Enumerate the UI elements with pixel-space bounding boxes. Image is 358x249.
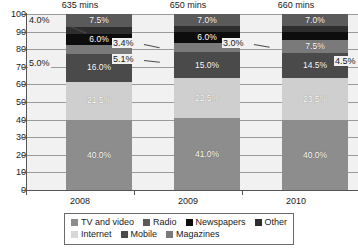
- callout-other-2008: 4.0%: [28, 15, 51, 25]
- legend-item-mobile[interactable]: Mobile: [121, 230, 158, 239]
- bar-annotation-2010: 660 mins: [248, 0, 344, 10]
- callout-newspapers-2009: 5.1%: [112, 54, 135, 64]
- segment-internet-2010[interactable]: 23.5%: [282, 78, 348, 119]
- y-axis-line: [26, 13, 27, 191]
- legend-label: Internet: [81, 230, 112, 239]
- segment-tv-and-video-2010[interactable]: 40.0%: [282, 120, 348, 190]
- callout-leader-line: [144, 44, 160, 48]
- plot-area: 40.0%21.5%16.0%6.0%7.5%41.0%22.5%15.0%6.…: [26, 14, 358, 190]
- bar-annotation-2009: 650 mins: [140, 0, 236, 10]
- segment-label: 7.5%: [305, 42, 324, 51]
- segment-newspapers-2010[interactable]: [282, 32, 348, 40]
- segment-internet-2009[interactable]: 22.5%: [174, 78, 240, 118]
- x-label-2010: 2010: [248, 196, 344, 206]
- segment-label: 6.0%: [89, 35, 108, 44]
- segment-radio-2009[interactable]: 7.0%: [174, 14, 240, 26]
- callout-other-2010: 3.0%: [222, 38, 245, 48]
- legend-label: Magazines: [176, 230, 220, 239]
- segment-label: 21.5%: [87, 96, 111, 105]
- legend-swatch-icon: [186, 219, 193, 226]
- legend-label: TV and video: [81, 218, 134, 227]
- legend-swatch-icon: [71, 219, 78, 226]
- segment-label: 40.0%: [87, 151, 111, 160]
- segment-magazines-2010[interactable]: 7.5%: [282, 40, 348, 53]
- callout-newspapers-2010: 4.5%: [334, 56, 357, 66]
- segment-internet-2008[interactable]: 21.5%: [66, 82, 132, 120]
- callout-other-2009: 3.4%: [112, 38, 135, 48]
- legend-label: Radio: [153, 218, 177, 227]
- segment-radio-2008[interactable]: 7.5%: [66, 14, 132, 27]
- segment-label: 7.5%: [89, 16, 108, 25]
- legend-label: Other: [265, 218, 288, 227]
- legend-item-radio[interactable]: Radio: [143, 218, 177, 227]
- segment-label: 15.0%: [195, 61, 219, 70]
- bar-annotation-2008: 635 mins: [32, 0, 128, 10]
- x-label-2008: 2008: [32, 196, 128, 206]
- legend-item-other[interactable]: Other: [255, 218, 288, 227]
- segment-label: 16.0%: [87, 63, 111, 72]
- legend-swatch-icon: [255, 219, 262, 226]
- segment-label: 14.5%: [303, 61, 327, 70]
- segment-label: 22.5%: [195, 94, 219, 103]
- legend-swatch-icon: [166, 231, 173, 238]
- callout-leader-line: [254, 44, 270, 48]
- legend-item-magazines[interactable]: Magazines: [166, 230, 220, 239]
- segment-label: 23.5%: [303, 95, 327, 104]
- segment-mobile-2009[interactable]: 15.0%: [174, 52, 240, 78]
- x-label-2009: 2009: [140, 196, 236, 206]
- legend-swatch-icon: [71, 231, 78, 238]
- segment-label: 7.0%: [197, 16, 216, 25]
- legend-item-newspapers[interactable]: Newspapers: [186, 218, 246, 227]
- callout-magazines-2008: 5.0%: [28, 58, 51, 68]
- segment-label: 40.0%: [303, 151, 327, 160]
- x-axis-line: [26, 190, 358, 191]
- segment-label: 41.0%: [195, 150, 219, 159]
- legend-row-1: TV and videoRadioNewspapersOther: [69, 216, 289, 228]
- legend-item-tv-and-video[interactable]: TV and video: [71, 218, 134, 227]
- callout-leader-line: [144, 60, 160, 63]
- segment-radio-2010[interactable]: 7.0%: [282, 14, 348, 26]
- legend-label: Newspapers: [196, 218, 246, 227]
- segment-other-2009[interactable]: [174, 26, 240, 32]
- x-tick-sep1: [134, 191, 135, 195]
- x-tick-2008: [26, 191, 27, 195]
- callout-leader-line: [318, 56, 334, 57]
- legend-row-2: InternetMobileMagazines: [69, 228, 289, 240]
- x-tick-sep2: [242, 191, 243, 195]
- legend: TV and videoRadioNewspapersOther Interne…: [64, 213, 294, 245]
- segment-label: 7.0%: [305, 16, 324, 25]
- legend-label: Mobile: [131, 230, 158, 239]
- segment-tv-and-video-2009[interactable]: 41.0%: [174, 118, 240, 190]
- stacked-bar-chart: 635 mins 650 mins 660 mins 0102030405060…: [0, 0, 358, 249]
- legend-item-internet[interactable]: Internet: [71, 230, 112, 239]
- segment-tv-and-video-2008[interactable]: 40.0%: [66, 120, 132, 190]
- segment-label: 6.0%: [197, 33, 216, 42]
- legend-swatch-icon: [143, 219, 150, 226]
- bar-2010[interactable]: 40.0%23.5%14.5%7.5%7.0%: [282, 14, 348, 190]
- legend-swatch-icon: [121, 231, 128, 238]
- segment-other-2010[interactable]: [282, 26, 348, 31]
